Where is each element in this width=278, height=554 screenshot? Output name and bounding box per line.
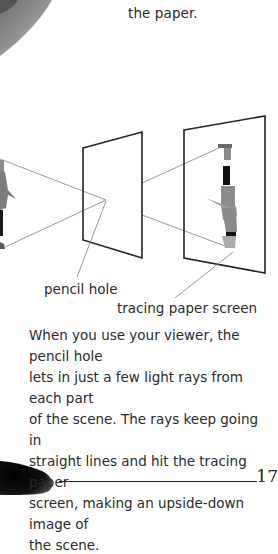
previous-paragraph-end: the paper. [128,5,198,21]
body-line: lets in just a few light rays from each … [29,367,269,409]
body-line: straight lines and hit the tracing paper [29,451,269,493]
body-line: screen, making an upside-down image of [29,493,269,535]
body-line: the scene. [29,535,269,554]
inverted-image-figure [206,144,237,248]
body-line: When you use your viewer, the pencil hol… [29,325,269,367]
footer-rule [59,481,257,482]
top-left-photo-fragment [0,0,52,56]
explanation-paragraph: When you use your viewer, the pencil hol… [29,325,269,554]
tracing-paper-screen-label: tracing paper screen [117,300,257,316]
page-number: 17 [256,466,278,486]
pencil-hole-label: pencil hole [44,281,118,297]
light-rays [0,147,225,247]
scene-figure [0,160,16,249]
body-line: of the scene. The rays keep going in [29,409,269,451]
